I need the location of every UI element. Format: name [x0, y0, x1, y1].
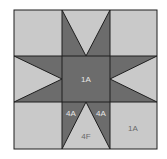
label-center: 1A [81, 75, 91, 84]
label-bottom-left-star-point: 4A [66, 109, 76, 118]
label-bottom-right-corner: 1A [128, 124, 138, 133]
label-bottom-right-star-point: 4A [96, 109, 106, 118]
quilt-block-diagram: 1A 4A 4A 4F 1A [0, 0, 167, 159]
label-bottom-background-triangle: 4F [81, 132, 90, 141]
